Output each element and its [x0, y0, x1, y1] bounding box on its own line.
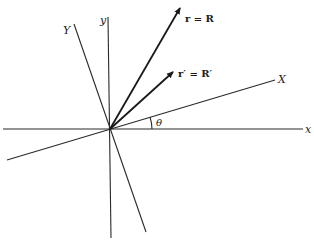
x-axis-label: x: [305, 123, 312, 136]
rotated-X-axis: [7, 80, 275, 160]
Y-axis-label: Y: [63, 24, 72, 37]
vector-r-equals-R: [110, 8, 180, 129]
theta-label: θ: [156, 117, 162, 128]
vector-r-prime-equals-R-prime: [110, 72, 173, 129]
rotated-axes-diagram: x y X Y θ r = R r′ = R′: [0, 0, 314, 243]
vector-r-prime-label: r′ = R′: [178, 68, 213, 79]
vector-r-label: r = R: [185, 13, 215, 24]
y-axis-label: y: [99, 14, 107, 27]
theta-arc: [150, 117, 152, 129]
X-axis-label: X: [277, 73, 287, 86]
